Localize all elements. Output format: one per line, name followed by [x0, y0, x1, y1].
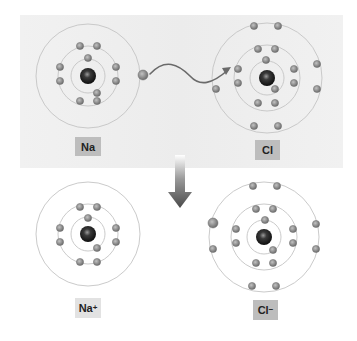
- electron-icon: [112, 224, 119, 231]
- nucleus-icon: [256, 229, 272, 245]
- electron-icon: [232, 239, 239, 246]
- electron-icon: [313, 85, 320, 92]
- label-cl-ion: Cl−: [253, 300, 278, 320]
- electron-icon: [250, 22, 257, 29]
- electron-icon: [84, 214, 91, 221]
- electron-icon: [56, 238, 63, 245]
- electron-icon: [76, 258, 83, 265]
- electron-icon: [250, 122, 257, 129]
- electron-icon: [93, 258, 100, 265]
- electron-icon: [290, 65, 297, 72]
- electron-icon: [290, 79, 297, 86]
- electron-icon: [271, 85, 278, 92]
- electron-icon: [312, 220, 319, 227]
- electron-icon: [248, 282, 255, 289]
- element-symbol: Na: [79, 302, 93, 314]
- electron-icon: [84, 54, 91, 61]
- electron-icon: [262, 56, 269, 63]
- electron-icon: [272, 282, 279, 289]
- electron-icon: [56, 224, 63, 231]
- electron-icon: [112, 238, 119, 245]
- electron-icon: [93, 203, 100, 210]
- label-na: Na: [75, 137, 101, 156]
- electron-icon: [93, 42, 100, 49]
- electron-icon: [269, 259, 276, 266]
- element-symbol: Cl: [258, 304, 269, 316]
- electron-icon: [274, 122, 281, 129]
- electron-icon: [232, 225, 239, 232]
- electron-icon: [274, 22, 281, 29]
- ion-charge: −: [269, 305, 274, 314]
- electron-icon: [252, 205, 259, 212]
- top-panel-bg: [20, 15, 343, 168]
- electron-icon: [249, 182, 256, 189]
- label-cl: Cl: [255, 140, 280, 160]
- electron-icon: [76, 203, 83, 210]
- electron-icon: [93, 97, 100, 104]
- electron-icon: [234, 79, 241, 86]
- electron-icon: [254, 99, 261, 106]
- electron-icon: [76, 97, 83, 104]
- electron-icon: [312, 245, 319, 252]
- ionic-bond-diagram: NaClNa+Cl−: [0, 0, 357, 341]
- electron-icon: [56, 77, 63, 84]
- electron-icon: [76, 42, 83, 49]
- electron-icon: [269, 205, 276, 212]
- electron-icon: [93, 244, 100, 251]
- electron-icon: [252, 259, 259, 266]
- nucleus-icon: [80, 68, 96, 84]
- electron-icon: [273, 182, 280, 189]
- electron-icon: [112, 63, 119, 70]
- electron-icon: [112, 77, 119, 84]
- ion-charge: +: [93, 303, 98, 312]
- electron-icon: [212, 85, 219, 92]
- electron-icon: [56, 63, 63, 70]
- electron-icon: [93, 89, 100, 96]
- element-symbol: Na: [81, 141, 95, 153]
- electron-icon: [209, 245, 216, 252]
- transferred-electron-icon: [138, 70, 148, 80]
- nucleus-icon: [80, 226, 96, 242]
- element-symbol: Cl: [262, 144, 273, 156]
- atom-cl-ion: [208, 182, 320, 292]
- electron-icon: [234, 65, 241, 72]
- atom-na-ion: [36, 182, 140, 286]
- electron-icon: [271, 99, 278, 106]
- transferred-electron-icon: [208, 218, 218, 228]
- electron-icon: [269, 246, 276, 253]
- electron-icon: [313, 60, 320, 67]
- top-panel: [20, 15, 343, 168]
- electron-icon: [271, 45, 278, 52]
- electron-icon: [261, 216, 268, 223]
- label-na-ion: Na+: [75, 298, 101, 318]
- nucleus-icon: [259, 70, 275, 86]
- electron-icon: [289, 225, 296, 232]
- electron-icon: [289, 239, 296, 246]
- diagram-canvas: [0, 0, 357, 341]
- electron-icon: [254, 45, 261, 52]
